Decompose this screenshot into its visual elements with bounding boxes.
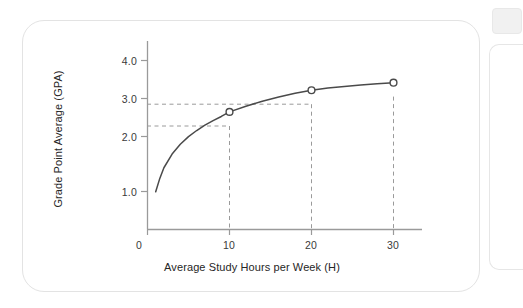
y-tick-label-3: 3.0: [115, 93, 137, 105]
figure-card: 4.0 3.0 2.0 1.0 0 10 20 30 Average Study…: [22, 20, 480, 292]
x-tick-label-0: 0: [136, 239, 142, 251]
edge-panel-body: [489, 44, 523, 270]
chart-svg: [23, 21, 481, 293]
y-tick-label-2: 2.0: [115, 131, 137, 143]
marker-h10: [226, 109, 233, 116]
marker-h20: [308, 87, 315, 94]
marker-h30: [390, 79, 397, 86]
edge-panel-top: [492, 8, 522, 34]
gpa-curve-line: [156, 83, 394, 192]
x-tick-label-30: 30: [387, 239, 399, 251]
guide-lines: [147, 97, 394, 229]
x-axis-title: Average Study Hours per Week (H): [23, 261, 481, 273]
x-tick-label-20: 20: [305, 239, 317, 251]
chart-plot-area: 4.0 3.0 2.0 1.0 0 10 20 30 Average Study…: [23, 21, 481, 293]
y-axis-title: Grade Point Average (GPA): [52, 44, 64, 234]
y-axis-ticks: [141, 61, 147, 192]
y-tick-label-4: 4.0: [115, 55, 137, 67]
x-tick-label-10: 10: [223, 239, 235, 251]
y-tick-label-1: 1.0: [115, 186, 137, 198]
